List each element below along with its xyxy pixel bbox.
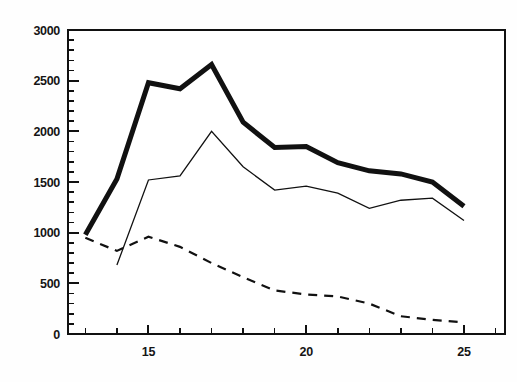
y-axis-tick-label: 1500 (33, 176, 60, 190)
x-axis-tick-label: 25 (457, 345, 471, 359)
y-axis-tick-label: 2000 (33, 125, 60, 139)
y-axis-tick-label: 0 (53, 328, 60, 342)
y-axis-tick-labels: 050010001500200025003000 (33, 24, 60, 342)
x-axis-tick-labels: 152025 (142, 345, 471, 359)
line-chart: 050010001500200025003000 152025 (0, 0, 517, 382)
y-axis-tick-label: 3000 (33, 24, 60, 38)
y-axis-tick-label: 1000 (33, 226, 60, 240)
x-axis-tick-label: 20 (300, 345, 314, 359)
chart-page: 050010001500200025003000 152025 (0, 0, 517, 382)
plot-frame (68, 30, 505, 334)
y-axis-tick-label: 500 (40, 277, 60, 291)
y-axis-tick-label: 2500 (33, 74, 60, 88)
x-axis-tick-label: 15 (142, 345, 156, 359)
